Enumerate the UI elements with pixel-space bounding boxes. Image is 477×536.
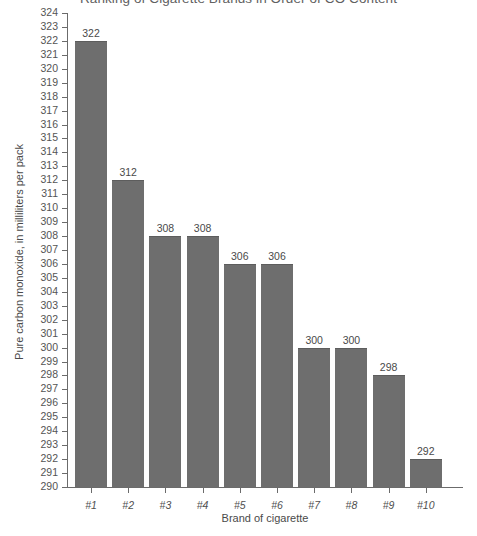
y-axis-tick-mark xyxy=(62,222,68,223)
x-axis-tick-label: #1 xyxy=(85,499,97,511)
bar-item[interactable]: 322#1 xyxy=(75,13,107,487)
bar[interactable] xyxy=(187,236,219,487)
x-axis-tick-mark xyxy=(277,487,278,493)
bar[interactable] xyxy=(112,180,144,487)
y-axis-tick-mark xyxy=(62,264,68,265)
bar-value-label: 298 xyxy=(380,361,398,373)
x-axis-tick-mark xyxy=(351,487,352,493)
y-axis-tick-label: 303 xyxy=(40,299,58,312)
y-axis-tick-mark xyxy=(62,375,68,376)
y-axis-tick-mark xyxy=(62,473,68,474)
bar[interactable] xyxy=(149,236,181,487)
x-axis-tick-label: #7 xyxy=(308,499,320,511)
bar-item[interactable]: 308#3 xyxy=(149,13,181,487)
y-axis-tick-mark xyxy=(62,459,68,460)
x-axis-tick-mark xyxy=(128,487,129,493)
y-axis-tick-mark xyxy=(62,362,68,363)
y-axis-title: Pure carbon monoxide, in milliliters per… xyxy=(13,132,25,372)
y-axis-tick-label: 292 xyxy=(40,452,58,465)
y-axis-tick-mark xyxy=(62,27,68,28)
y-axis-tick-label: 290 xyxy=(40,480,58,493)
bar-item[interactable]: 292#10 xyxy=(410,13,442,487)
y-axis-tick-label: 322 xyxy=(40,34,58,47)
y-axis-tick-mark xyxy=(62,83,68,84)
bar-item[interactable]: 312#2 xyxy=(112,13,144,487)
y-axis-tick-mark xyxy=(62,278,68,279)
bar-item[interactable]: 308#4 xyxy=(187,13,219,487)
bar-value-label: 306 xyxy=(268,250,286,262)
x-axis-tick-mark xyxy=(240,487,241,493)
y-axis-tick-label: 319 xyxy=(40,76,58,89)
y-axis-tick-mark xyxy=(62,348,68,349)
y-axis-tick-mark xyxy=(62,111,68,112)
bar[interactable] xyxy=(261,264,293,487)
y-axis-tick-label: 324 xyxy=(40,6,58,19)
y-axis-tick-label: 294 xyxy=(40,424,58,437)
y-axis-tick-mark xyxy=(62,13,68,14)
y-axis-tick-mark xyxy=(62,180,68,181)
bar-item[interactable]: 298#9 xyxy=(373,13,405,487)
plot-area: 2902912922932942952962972982993003013023… xyxy=(67,13,463,487)
bar-value-label: 308 xyxy=(194,222,212,234)
x-axis-tick-mark xyxy=(165,487,166,493)
y-axis-tick-label: 293 xyxy=(40,438,58,451)
y-axis-tick-label: 308 xyxy=(40,229,58,242)
y-axis-tick-mark xyxy=(62,236,68,237)
y-axis-tick-label: 318 xyxy=(40,90,58,103)
y-axis-tick-mark xyxy=(62,417,68,418)
chart-title-container: Ranking of Cigarette Brands in Order of … xyxy=(0,0,477,10)
y-axis-tick-mark xyxy=(62,55,68,56)
y-axis-tick-label: 298 xyxy=(40,368,58,381)
y-axis-tick-mark xyxy=(62,320,68,321)
y-axis-tick-mark xyxy=(62,208,68,209)
y-axis-tick-mark xyxy=(62,389,68,390)
y-axis-tick-mark xyxy=(62,125,68,126)
y-axis-tick-label: 307 xyxy=(40,243,58,256)
x-axis-tick-label: #4 xyxy=(197,499,209,511)
x-axis-tick-mark xyxy=(389,487,390,493)
y-axis-tick-label: 295 xyxy=(40,410,58,423)
y-axis-tick-mark xyxy=(62,166,68,167)
bar-item[interactable]: 300#7 xyxy=(298,13,330,487)
x-axis-tick-mark xyxy=(426,487,427,493)
y-axis-tick-label: 315 xyxy=(40,131,58,144)
chart-title: Ranking of Cigarette Brands in Order of … xyxy=(0,0,477,6)
x-axis-tick-label: #6 xyxy=(271,499,283,511)
x-axis-tick-label: #10 xyxy=(417,499,435,511)
y-axis-tick-label: 310 xyxy=(40,201,58,214)
y-axis-tick-label: 296 xyxy=(40,396,58,409)
y-axis-tick-label: 306 xyxy=(40,257,58,270)
y-axis-tick-label: 317 xyxy=(40,104,58,117)
bar[interactable] xyxy=(298,348,330,487)
y-axis-tick-label: 309 xyxy=(40,215,58,228)
y-axis-tick-mark xyxy=(62,403,68,404)
y-axis-tick-mark xyxy=(62,194,68,195)
y-axis-tick-label: 300 xyxy=(40,341,58,354)
bar-value-label: 300 xyxy=(343,334,361,346)
bar[interactable] xyxy=(410,459,442,487)
bar-value-label: 292 xyxy=(417,445,435,457)
y-axis-tick-mark xyxy=(62,138,68,139)
y-axis-tick-label: 320 xyxy=(40,62,58,75)
bar-item[interactable]: 300#8 xyxy=(335,13,367,487)
y-axis-tick-label: 312 xyxy=(40,173,58,186)
bar[interactable] xyxy=(224,264,256,487)
x-axis-tick-mark xyxy=(203,487,204,493)
x-axis-tick-label: #8 xyxy=(346,499,358,511)
y-axis-tick-label: 323 xyxy=(40,20,58,33)
y-axis-tick-mark xyxy=(62,431,68,432)
bar-item[interactable]: 306#6 xyxy=(261,13,293,487)
x-axis-tick-label: #3 xyxy=(160,499,172,511)
y-axis-tick-label: 302 xyxy=(40,313,58,326)
bar[interactable] xyxy=(373,375,405,487)
y-axis-tick-mark xyxy=(62,69,68,70)
y-axis-tick-mark xyxy=(62,334,68,335)
bar[interactable] xyxy=(335,348,367,487)
bar-value-label: 322 xyxy=(82,27,100,39)
x-axis-tick-mark xyxy=(91,487,92,493)
x-axis-tick-label: #9 xyxy=(383,499,395,511)
bar[interactable] xyxy=(75,41,107,487)
bar-item[interactable]: 306#5 xyxy=(224,13,256,487)
y-axis-tick-mark xyxy=(62,41,68,42)
y-axis-tick-mark xyxy=(62,306,68,307)
